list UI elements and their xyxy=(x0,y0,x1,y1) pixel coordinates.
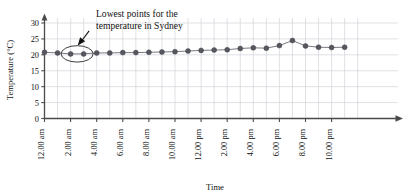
x-tick-label: 2.00 pm xyxy=(220,128,229,156)
x-tick-label: 4.00 pm xyxy=(246,128,255,156)
data-point xyxy=(159,49,164,54)
data-point xyxy=(186,49,191,54)
x-tick-label: 6.00 pm xyxy=(272,128,281,156)
data-point xyxy=(94,50,99,55)
y-tick-label: 5 xyxy=(35,99,39,108)
x-tick-label: 8.00 pm xyxy=(299,128,308,156)
x-tick-label: 10.00 am xyxy=(168,128,177,160)
x-tick-label: 12.00 am xyxy=(38,128,47,160)
data-point xyxy=(212,48,217,53)
data-point xyxy=(316,45,321,50)
y-axis-arrowhead xyxy=(42,14,48,21)
annotation-text-line-1: Lowest points for the xyxy=(96,8,178,19)
data-point xyxy=(173,49,178,54)
data-point xyxy=(107,50,112,55)
y-tick-label: 0 xyxy=(35,115,39,124)
x-axis-title: Time xyxy=(206,182,224,192)
data-point xyxy=(55,50,60,55)
x-tick-label: 4.00 am xyxy=(90,128,99,155)
x-tick-label: 6.00 am xyxy=(116,128,125,155)
data-point xyxy=(146,50,151,55)
data-point xyxy=(264,46,269,51)
data-point xyxy=(133,50,138,55)
data-point xyxy=(199,48,204,53)
x-axis-ticks: 12.00 am2.00 am4.00 am6.00 am8.00 am10.0… xyxy=(38,119,334,161)
y-tick-label: 25 xyxy=(31,35,39,44)
data-point xyxy=(303,43,308,48)
grid-lines xyxy=(45,18,399,119)
data-point xyxy=(329,45,334,50)
annotation-text-line-2: temperature in Sydney xyxy=(96,20,183,31)
data-point xyxy=(42,50,47,55)
data-point xyxy=(120,50,125,55)
data-point xyxy=(342,45,347,50)
data-point xyxy=(290,38,295,43)
temperature-series xyxy=(42,38,347,56)
x-tick-label: 12.00 pm xyxy=(194,128,203,160)
temperature-line-chart: 051015202530 12.00 am2.00 am4.00 am6.00 … xyxy=(0,0,411,195)
x-tick-label: 10.00 pm xyxy=(325,128,334,160)
y-tick-label: 10 xyxy=(31,83,39,92)
data-point xyxy=(238,46,243,51)
y-tick-label: 20 xyxy=(31,51,39,60)
y-tick-label: 15 xyxy=(31,67,39,76)
x-tick-label: 8.00 am xyxy=(142,128,151,155)
x-tick-label: 2.00 am xyxy=(64,128,73,155)
data-point xyxy=(68,51,73,56)
x-axis-arrowhead xyxy=(396,115,404,121)
data-point xyxy=(81,51,86,56)
chart-canvas: 051015202530 12.00 am2.00 am4.00 am6.00 … xyxy=(0,0,411,195)
y-axis-title: Temperature (°C) xyxy=(5,40,15,100)
y-tick-label: 30 xyxy=(31,19,39,28)
data-point xyxy=(277,43,282,48)
y-axis-ticks: 051015202530 xyxy=(31,19,45,124)
series-line-path xyxy=(45,41,345,54)
data-point xyxy=(251,45,256,50)
data-point xyxy=(225,47,230,52)
